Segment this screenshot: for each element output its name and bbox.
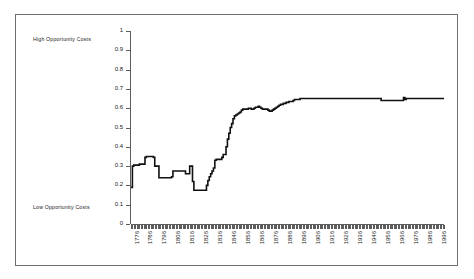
x-tick-label: 1776 xyxy=(134,231,140,244)
y-tick-mark xyxy=(126,166,130,167)
x-tick-label: 1896 xyxy=(301,231,307,244)
plot-area xyxy=(131,31,444,224)
annotation-high-opportunity-costs: High Opportunity Costs xyxy=(33,36,91,42)
x-tick-label: 1876 xyxy=(273,231,279,244)
x-tick-label: 1996 xyxy=(441,231,447,244)
y-tick-label: 0 xyxy=(101,220,123,226)
y-tick-label: 0.9 xyxy=(101,46,123,52)
series-line-opportunity-cost-index xyxy=(131,31,444,224)
x-tick-label: 1786 xyxy=(147,231,153,244)
x-tick-label: 1926 xyxy=(343,231,349,244)
x-tick-label: 1936 xyxy=(357,231,363,244)
x-tick-label: 1946 xyxy=(371,231,377,244)
x-tick-label: 1916 xyxy=(329,231,335,244)
x-tick-label: 1856 xyxy=(245,231,251,244)
y-tick-mark xyxy=(126,50,130,51)
y-tick-mark xyxy=(126,89,130,90)
x-tick-label: 1866 xyxy=(259,231,265,244)
y-tick-mark xyxy=(126,224,130,225)
y-tick-mark xyxy=(126,147,130,148)
y-tick-label: 1 xyxy=(101,27,123,33)
y-tick-label: 0.7 xyxy=(101,85,123,91)
y-tick-label: 0.1 xyxy=(101,201,123,207)
annotation-low-opportunity-costs: Low Opportunity Costs xyxy=(33,204,90,210)
x-tick-label: 1826 xyxy=(203,231,209,244)
y-tick-label: 0.8 xyxy=(101,66,123,72)
x-tick-label: 1796 xyxy=(161,231,167,244)
chart-figure: High Opportunity Costs Low Opportunity C… xyxy=(0,0,474,279)
y-tick-label: 0.2 xyxy=(101,181,123,187)
x-tick-label: 1816 xyxy=(189,231,195,244)
x-tick-label: 1956 xyxy=(385,231,391,244)
x-tick-label: 1836 xyxy=(217,231,223,244)
y-tick-mark xyxy=(126,108,130,109)
x-tick-label: 1886 xyxy=(287,231,293,244)
y-tick-mark xyxy=(126,31,130,32)
x-tick-label: 1906 xyxy=(315,231,321,244)
y-tick-label: 0.3 xyxy=(101,162,123,168)
y-tick-label: 0.4 xyxy=(101,143,123,149)
y-tick-mark xyxy=(126,128,130,129)
y-tick-label: 0.6 xyxy=(101,104,123,110)
x-tick-label: 1966 xyxy=(399,231,405,244)
y-tick-mark xyxy=(126,70,130,71)
y-tick-mark xyxy=(126,185,130,186)
y-tick-mark xyxy=(126,205,130,206)
x-tick-label: 1846 xyxy=(231,231,237,244)
x-tick-mark xyxy=(444,225,445,229)
y-tick-label: 0.5 xyxy=(101,124,123,130)
x-tick-label: 1976 xyxy=(413,231,419,244)
x-tick-label: 1986 xyxy=(427,231,433,244)
x-tick-label: 1806 xyxy=(175,231,181,244)
